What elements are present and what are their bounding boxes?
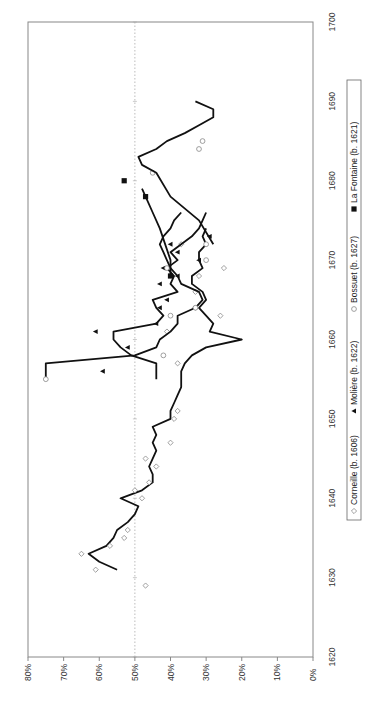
year-tick-label: 1670 [327,250,337,269]
legend-label: Molière (b. 1622) [349,341,359,405]
legend-item: Bossuet (b. 1627) [349,236,359,312]
circle-marker [43,377,48,382]
square-marker [122,178,127,183]
triangle-marker [93,329,98,334]
triangle-marker [125,345,130,350]
diamond-marker [125,527,130,532]
triangle-marker [100,369,105,374]
year-axis-ticks: 162016301640165016601670168016901700 [327,12,337,666]
diamond-marker [143,583,148,588]
triangle-marker [157,282,162,287]
year-tick-label: 1660 [327,330,337,349]
circle-marker [204,258,209,263]
value-tick-label: 40% [166,664,176,681]
square-marker [143,194,148,199]
diamond-marker [171,416,176,421]
value-tick-label: 10% [272,664,282,681]
diamond-marker [221,265,226,270]
value-axis-ticks: 0%10%20%30%40%50%60%70%80% [23,657,318,681]
year-tick-label: 1680 [327,171,337,190]
diamond-marker [122,535,127,540]
circle-marker [352,307,357,312]
diamond-marker [168,440,173,445]
series-line [46,213,203,380]
series-group [43,101,241,588]
diamond-marker [218,313,223,318]
circle-marker [161,353,166,358]
triangle-marker [164,297,169,302]
year-tick-label: 1630 [327,568,337,587]
diamond-marker [93,567,98,572]
circle-marker [197,147,202,152]
diamond-marker [139,496,144,501]
triangle-marker [168,242,173,247]
value-tick-label: 80% [23,664,33,681]
plot-border [28,22,313,657]
triangle-marker [153,321,158,326]
value-tick-label: 60% [94,664,104,681]
year-tick-label: 1690 [327,92,337,111]
diamond-marker [175,361,180,366]
circle-marker [193,305,198,310]
circle-marker [168,313,173,318]
circle-marker [165,266,170,271]
diamond-marker [79,551,84,556]
value-tick-label: 20% [237,664,247,681]
year-tick-label: 1620 [327,647,337,666]
legend-label: La Fontaine (b. 1621) [349,122,359,203]
diamond-marker [143,456,148,461]
square-marker [351,206,356,211]
year-tick-label: 1700 [327,12,337,31]
rotated-line-chart: 0%10%20%30%40%50%60%70%80% 1620163016401… [0,0,373,713]
legend: Corneille (b. 1606)Molière (b. 1622)Boss… [347,80,361,520]
value-tick-label: 50% [130,664,140,681]
year-tick-label: 1650 [327,409,337,428]
year-tick-label: 1640 [327,489,337,508]
legend-item: La Fontaine (b. 1621) [349,122,359,212]
legend-label: Bossuet (b. 1627) [349,236,359,303]
series-la [122,178,174,278]
circle-marker [200,139,205,144]
series-bossuet [43,139,208,382]
plot-frame [28,22,313,657]
triangle-marker [175,250,180,255]
value-tick-label: 0% [308,668,318,681]
value-tick-label: 30% [201,664,211,681]
value-tick-label: 70% [59,664,69,681]
circle-marker [204,242,209,247]
legend-label: Corneille (b. 1606) [349,435,359,505]
diamond-marker [196,273,201,278]
series-line [89,228,242,569]
legend-item: Corneille (b. 1606) [349,435,359,514]
diamond-marker [154,464,159,469]
reference-line-50 [133,22,137,657]
legend-item: Molière (b. 1622) [349,341,359,414]
square-marker [168,273,173,278]
diamond-marker [175,408,180,413]
